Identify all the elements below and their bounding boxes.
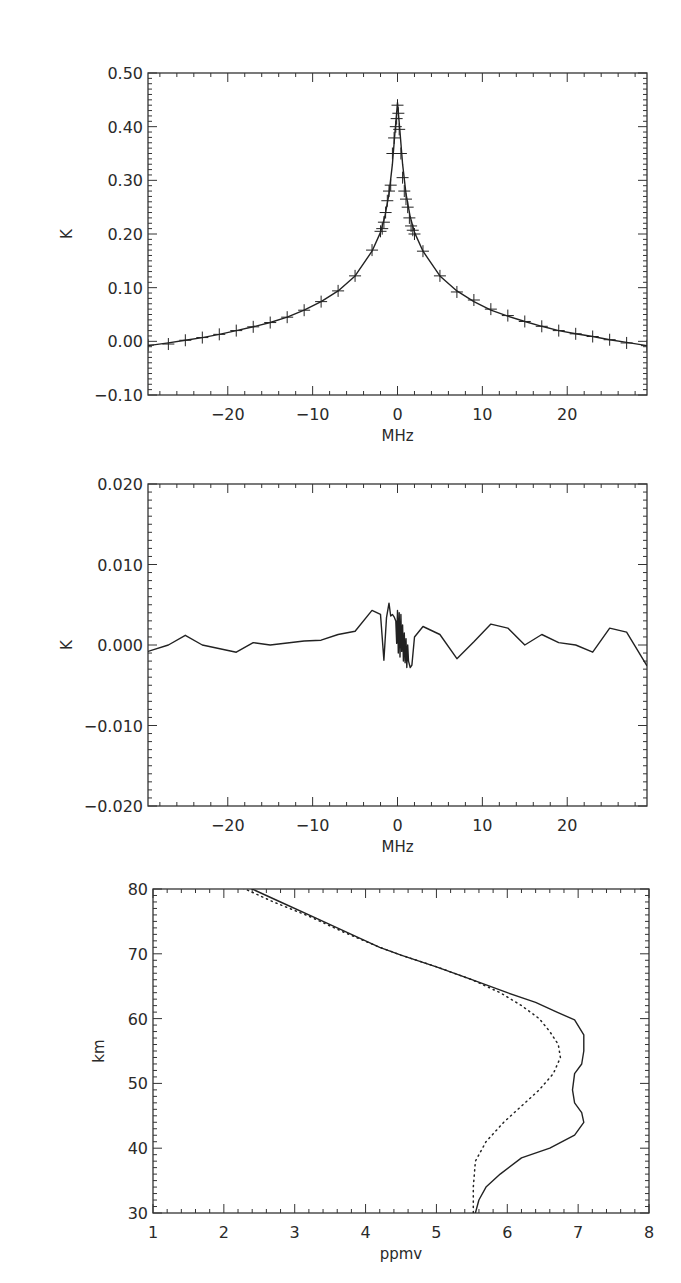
y-axis-label: K bbox=[58, 228, 76, 239]
y-tick-label: 50 bbox=[128, 1074, 148, 1093]
plot-frame bbox=[148, 73, 647, 395]
x-tick-label: 4 bbox=[360, 1223, 370, 1242]
y-tick-label: 60 bbox=[128, 1010, 148, 1029]
x-tick-label: 7 bbox=[573, 1223, 583, 1242]
x-tick-label: 6 bbox=[502, 1223, 512, 1242]
dotted-series-line bbox=[238, 886, 560, 1213]
y-tick-label: 0.00 bbox=[107, 332, 143, 351]
x-axis-label: MHz bbox=[381, 838, 413, 856]
y-axis-label: km bbox=[90, 1039, 108, 1062]
x-tick-label: 3 bbox=[290, 1223, 300, 1242]
x-tick-label: −20 bbox=[211, 816, 245, 835]
x-tick-label: 1 bbox=[148, 1223, 158, 1242]
y-tick-label: 0.010 bbox=[97, 556, 143, 575]
solid-series-line bbox=[245, 886, 584, 1213]
x-tick-label: 10 bbox=[472, 816, 492, 835]
y-tick-label: −0.10 bbox=[94, 386, 143, 405]
solid-series-line bbox=[148, 603, 647, 667]
x-tick-label: 20 bbox=[557, 816, 577, 835]
x-tick-label: 5 bbox=[431, 1223, 441, 1242]
y-tick-label: 0.000 bbox=[97, 636, 143, 655]
residual-panel: −20−1001020−0.020−0.0100.0000.0100.020MH… bbox=[58, 475, 647, 856]
profile-panel: 12345678304050607080ppmvkm bbox=[90, 880, 654, 1263]
x-tick-label: −10 bbox=[296, 405, 330, 424]
y-tick-label: 0.40 bbox=[107, 118, 143, 137]
y-axis-label: K bbox=[58, 639, 76, 650]
x-tick-label: 0 bbox=[392, 405, 402, 424]
solid-series-line bbox=[148, 103, 647, 346]
y-tick-label: −0.010 bbox=[84, 717, 143, 736]
y-tick-label: 70 bbox=[128, 945, 148, 964]
x-axis-label: ppmv bbox=[380, 1245, 423, 1263]
y-tick-label: 80 bbox=[128, 880, 148, 899]
y-tick-label: 0.50 bbox=[107, 64, 143, 83]
x-tick-label: 20 bbox=[557, 405, 577, 424]
y-tick-label: 0.30 bbox=[107, 171, 143, 190]
spectrum-fit-panel: −20−1001020−0.100.000.100.200.300.400.50… bbox=[58, 64, 653, 445]
x-tick-label: 10 bbox=[472, 405, 492, 424]
y-tick-label: 0.20 bbox=[107, 225, 143, 244]
y-tick-label: 0.10 bbox=[107, 279, 143, 298]
x-tick-label: 0 bbox=[392, 816, 402, 835]
y-tick-label: 40 bbox=[128, 1139, 148, 1158]
plot-frame bbox=[153, 889, 649, 1213]
figure-canvas: −20−1001020−0.100.000.100.200.300.400.50… bbox=[0, 0, 681, 1283]
x-tick-label: 2 bbox=[219, 1223, 229, 1242]
y-tick-label: −0.020 bbox=[84, 797, 143, 816]
x-tick-label: −20 bbox=[211, 405, 245, 424]
y-tick-label: 30 bbox=[128, 1204, 148, 1223]
y-tick-label: 0.020 bbox=[97, 475, 143, 494]
x-tick-label: −10 bbox=[296, 816, 330, 835]
x-axis-label: MHz bbox=[381, 427, 413, 445]
x-tick-label: 8 bbox=[644, 1223, 654, 1242]
